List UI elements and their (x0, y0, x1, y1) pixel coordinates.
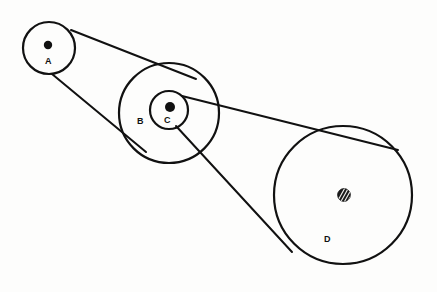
pulley-c-label: C (164, 115, 171, 125)
belt-a-b-upper (71, 30, 196, 79)
belt-group (52, 30, 398, 252)
pulley-hub-group (44, 41, 355, 206)
pulley-d-hub-hatched (336, 186, 355, 206)
pulley-a-label: A (45, 56, 52, 66)
belt-a-b-lower (52, 74, 146, 152)
pulley-rim-group (23, 22, 412, 264)
belt-c-d-upper-crossed (182, 96, 398, 150)
pulley-diagram: A B C D (0, 0, 437, 292)
pulley-diagram-canvas: A B C D (0, 0, 437, 292)
pulley-c-hub-dot (165, 102, 175, 112)
pulley-b-rim (119, 63, 219, 163)
pulley-a-hub-dot (44, 41, 52, 49)
pulley-b-label: B (137, 116, 144, 126)
pulley-d-label: D (324, 234, 331, 244)
pulley-label-group: A B C D (45, 56, 331, 244)
